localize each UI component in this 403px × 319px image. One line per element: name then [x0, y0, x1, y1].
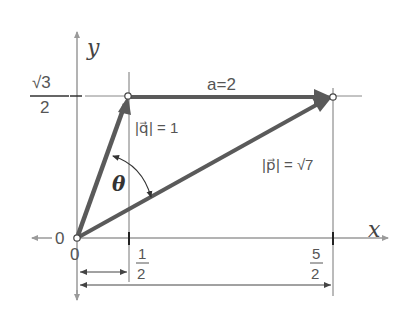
tick-label-five-halves-den: 2: [311, 265, 319, 282]
angle-label: θ: [112, 172, 126, 196]
tick-label-five-halves-num: 5: [312, 245, 320, 262]
tick-label-half-den: 2: [137, 265, 145, 282]
tick-label-sqrt3-num: √3: [32, 73, 51, 92]
y-axis-label: y: [86, 35, 100, 60]
vector-a-label: a=2: [207, 75, 236, 94]
vector-p-label: |p⃗| = √7: [262, 156, 313, 173]
vector-diagram: y x 0 0 √3 2 1 2 5 2 a=2 |q⃗| = 1 |p⃗| =…: [0, 0, 403, 319]
point-q-end: [125, 93, 131, 99]
vector-q: [77, 104, 125, 238]
vector-q-label: |q⃗| = 1: [135, 119, 178, 136]
tick-label-half-num: 1: [138, 245, 146, 262]
point-p-end: [330, 94, 336, 100]
origin-label: 0: [70, 245, 79, 264]
x-axis-label: x: [368, 217, 381, 242]
origin-left-label: 0: [55, 229, 64, 248]
tick-label-sqrt3-den: 2: [40, 98, 49, 117]
point-origin: [74, 235, 80, 241]
